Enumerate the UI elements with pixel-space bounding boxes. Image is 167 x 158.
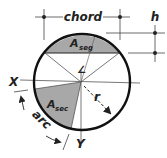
y-axis-label: Y	[76, 137, 86, 151]
h-dim-dot-bottom	[153, 51, 157, 55]
chord-dim-dot-right	[118, 15, 122, 19]
h-label: h	[151, 10, 160, 24]
chord-dim-dot-left	[42, 15, 46, 19]
h-dim-dot-top	[153, 31, 157, 35]
arc-arrow-down	[46, 136, 60, 142]
angle-mark: ∠	[77, 64, 86, 75]
arc-ext-bottom	[63, 134, 69, 150]
arc-ext-top	[14, 90, 28, 92]
circle-diagram: chord h A seg ∠ A sec X Y r arc	[0, 0, 167, 158]
chord-label: chord	[64, 10, 103, 24]
radius-line-right	[81, 53, 119, 82]
a-seg-subscript: seg	[79, 44, 93, 52]
a-seg-label: A	[69, 37, 79, 50]
a-sec-subscript: sec	[55, 105, 69, 113]
arc-arrow-up	[21, 97, 24, 110]
x-axis-label: X	[8, 75, 19, 89]
radius-line-left	[45, 53, 81, 82]
